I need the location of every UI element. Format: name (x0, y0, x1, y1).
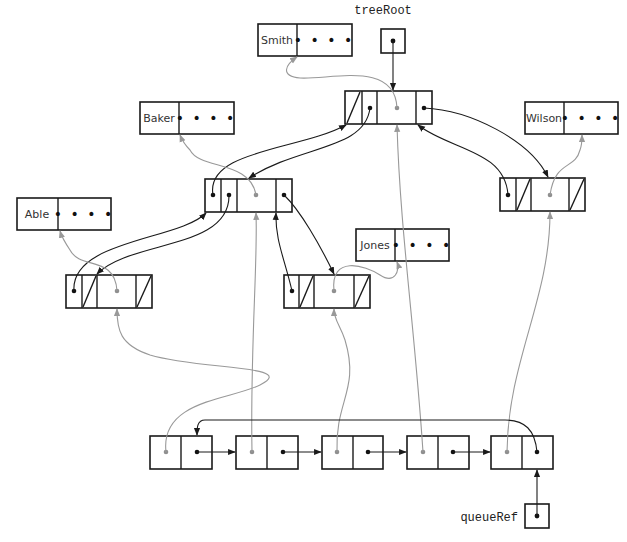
record-rest: • • • • (54, 206, 114, 222)
tree-node-root (345, 91, 432, 124)
record-key: Jones (359, 239, 390, 252)
tree-node-able (66, 275, 152, 308)
tree-queue-diagram: Smith • • • • Baker • • • • Wilson • • •… (0, 0, 627, 542)
queue-ref-label: queueRef (460, 511, 518, 525)
tree-node-baker (205, 179, 292, 212)
record-baker: Baker • • • • (140, 102, 236, 134)
record-rest: • • • • (176, 110, 236, 126)
record-rest: • • • • (561, 110, 621, 126)
tree-links (74, 41, 548, 291)
record-rest: • • • • (392, 237, 452, 253)
queue-node-5 (491, 436, 553, 469)
record-rest: • • • • (294, 32, 354, 48)
record-smith: Smith • • • • (258, 24, 354, 56)
data-links (60, 57, 582, 452)
record-key: Smith (261, 34, 293, 47)
tree-root-label: treeRoot (354, 4, 412, 18)
tree-node-jones (284, 275, 370, 308)
record-key: Able (25, 208, 50, 221)
record-able: Able • • • • (17, 198, 114, 230)
record-key: Baker (143, 112, 175, 125)
record-key: Wilson (526, 112, 562, 125)
record-wilson: Wilson • • • • (525, 102, 621, 134)
tree-node-wilson (500, 178, 585, 211)
